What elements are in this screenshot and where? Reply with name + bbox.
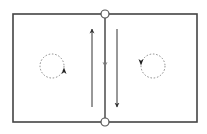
left-vortex-circle xyxy=(40,54,64,78)
flow-diagram xyxy=(0,0,207,134)
bottom-node xyxy=(101,118,109,126)
right-vortex-circle xyxy=(141,54,165,78)
left-vortex-arrowhead-icon xyxy=(62,68,67,75)
right-vortex-arrowhead-icon xyxy=(139,59,144,66)
top-node xyxy=(101,10,109,18)
